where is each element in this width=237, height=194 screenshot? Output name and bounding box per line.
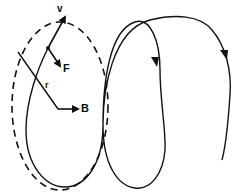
dashed-orbit-ellipse	[12, 22, 108, 190]
velocity-label: v	[57, 3, 63, 14]
field-label: B	[81, 102, 89, 114]
force-label: F	[63, 62, 70, 74]
radius-line	[18, 52, 58, 109]
force-vector	[48, 48, 60, 66]
radius-label: r	[45, 80, 49, 90]
helix-diagram: v F r B	[0, 0, 237, 194]
helix-direction-arrow-2	[220, 50, 228, 60]
helix-direction-arrow-1	[151, 57, 159, 67]
helix-path	[26, 17, 230, 189]
